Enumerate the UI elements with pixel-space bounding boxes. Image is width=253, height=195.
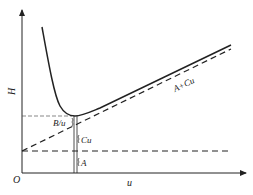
brace-cu <box>78 135 79 143</box>
cu-label: Cu <box>81 135 92 145</box>
origin-label: O <box>13 174 20 185</box>
a-label: A <box>80 158 87 168</box>
brace-b-over-u <box>72 118 73 126</box>
x-axis-label: u <box>127 177 132 188</box>
y-axis-label: H <box>6 87 17 96</box>
brace-a <box>78 158 79 166</box>
van-deemter-diagram: O u H B/u Cu A A+Cu <box>0 0 253 195</box>
a-plus-cu-label: A+Cu <box>171 75 197 94</box>
b-over-u-label: B/u <box>53 118 66 128</box>
a-plus-cu-dashed-line <box>22 49 231 151</box>
h-curve <box>42 27 231 116</box>
